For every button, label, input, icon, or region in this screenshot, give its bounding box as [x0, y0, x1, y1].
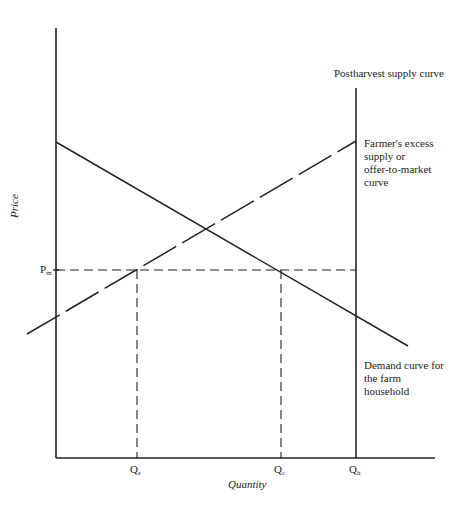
pm-label-sub: m: [46, 269, 51, 277]
excess-supply-label: Farmer's excess supply or offer-to-marke…: [364, 137, 434, 189]
postharvest-supply-label: Postharvest supply curve: [334, 67, 444, 80]
qs-label-main: Q: [130, 463, 138, 475]
qh-label-main: Q: [349, 463, 357, 475]
qs-label: Qs: [130, 463, 141, 480]
y-axis-label: Price: [8, 194, 20, 218]
qh-label: Qh: [349, 463, 360, 480]
pm-label: Pm: [40, 263, 52, 280]
qs-label-sub: s: [138, 469, 141, 477]
excess-supply-label-line-4: curve: [364, 176, 434, 189]
qh-label-sub: h: [357, 469, 361, 477]
qc-label-main: Q: [274, 463, 282, 475]
excess-supply-label-line-1: Farmer's excess: [364, 137, 434, 150]
demand-label-line-1: Demand curve for: [364, 359, 444, 372]
demand-curve-label: Demand curve for the farm household: [364, 359, 444, 398]
qc-label-sub: c: [282, 469, 285, 477]
excess-supply-curve: [27, 141, 356, 334]
x-axis-label: Quantity: [228, 478, 267, 491]
excess-supply-label-line-2: supply or: [364, 150, 434, 163]
demand-label-line-2: the farm: [364, 372, 444, 385]
excess-supply-label-line-3: offer-to-market: [364, 163, 434, 176]
qc-label: Qc: [274, 463, 285, 480]
demand-label-line-3: household: [364, 385, 444, 398]
